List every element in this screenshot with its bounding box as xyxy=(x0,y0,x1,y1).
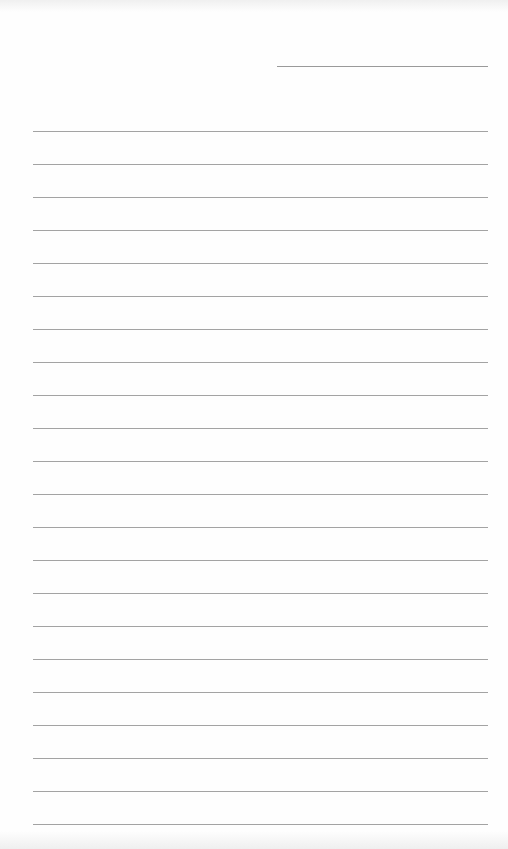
ruled-line xyxy=(33,296,488,297)
ruled-line xyxy=(33,197,488,198)
ruled-line xyxy=(33,692,488,693)
ruled-line xyxy=(33,791,488,792)
ruled-line xyxy=(33,461,488,462)
ruled-line xyxy=(33,824,488,825)
ruled-line xyxy=(33,395,488,396)
ruled-line xyxy=(33,230,488,231)
ruled-line xyxy=(33,659,488,660)
date-line xyxy=(277,66,488,67)
ruled-line xyxy=(33,362,488,363)
ruled-line xyxy=(33,560,488,561)
ruled-line xyxy=(33,758,488,759)
ruled-line xyxy=(33,263,488,264)
ruled-line xyxy=(33,725,488,726)
ruled-line xyxy=(33,164,488,165)
ruled-line xyxy=(33,494,488,495)
ruled-line xyxy=(33,131,488,132)
ruled-line xyxy=(33,593,488,594)
ruled-line xyxy=(33,329,488,330)
ruled-line xyxy=(33,527,488,528)
scan-edge-top xyxy=(0,0,508,12)
scan-edge-bottom xyxy=(0,831,508,849)
ruled-line xyxy=(33,626,488,627)
ruled-line xyxy=(33,428,488,429)
